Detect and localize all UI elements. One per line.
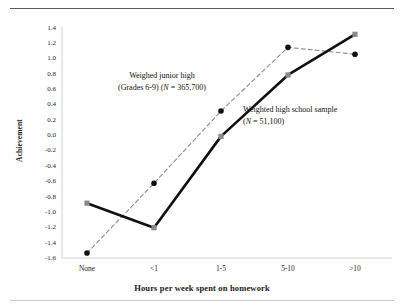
line-chart: 1.4 1.2 1.0 0.8 0.6 0.4 0.2 0.0 -0.2 -0.… bbox=[0, 18, 404, 278]
y-tick-label: -0.8 bbox=[45, 193, 57, 201]
annotation-text: = 365,700) bbox=[169, 83, 206, 92]
top-divider-rule bbox=[10, 8, 394, 9]
x-axis-title: Hours per week spent on homework bbox=[0, 283, 404, 293]
bottom-divider-rule bbox=[10, 300, 394, 301]
annotation-high-school: Weighted high school sample (N = 51,100) bbox=[243, 104, 337, 127]
x-tick-label: <1 bbox=[150, 264, 158, 273]
y-tick-label: 1.0 bbox=[47, 54, 56, 62]
data-point-marker bbox=[151, 180, 157, 186]
y-tick-label: -0.2 bbox=[45, 146, 57, 154]
y-tick-label: 0.0 bbox=[47, 131, 56, 139]
y-tick-label: 1.4 bbox=[47, 24, 56, 32]
y-axis-title: Achievement bbox=[15, 96, 24, 186]
data-point-marker bbox=[352, 51, 358, 57]
annotation-junior-high: Weighed junior high (Grades 6-9) (N = 36… bbox=[118, 70, 206, 93]
y-axis-ticks: 1.4 1.2 1.0 0.8 0.6 0.4 0.2 0.0 -0.2 -0.… bbox=[45, 24, 57, 262]
annotation-text: = 51,100) bbox=[251, 117, 284, 126]
y-tick-label: -1.2 bbox=[45, 223, 57, 231]
y-tick-label: 0.2 bbox=[47, 116, 56, 124]
x-axis-ticks: None <1 1-5 5-10 >10 bbox=[79, 264, 361, 273]
y-tick-label: -0.4 bbox=[45, 162, 57, 170]
data-point-marker bbox=[285, 45, 291, 51]
data-point-marker bbox=[352, 32, 357, 37]
annotation-text: (Grades 6-9) ( bbox=[118, 83, 163, 92]
series-line bbox=[87, 34, 355, 227]
data-point-marker bbox=[285, 72, 290, 77]
y-tick-label: 1.2 bbox=[47, 39, 56, 47]
annotation-line-2: (Grades 6-9) (N = 365,700) bbox=[118, 82, 206, 94]
data-point-marker bbox=[84, 201, 89, 206]
data-point-marker bbox=[84, 250, 90, 256]
x-tick-label: None bbox=[79, 264, 96, 273]
annotation-line-1: Weighed junior high bbox=[118, 70, 206, 82]
y-tick-label: 0.4 bbox=[47, 100, 56, 108]
annotation-line-2: (N = 51,100) bbox=[243, 116, 337, 128]
figure-container: 1.4 1.2 1.0 0.8 0.6 0.4 0.2 0.0 -0.2 -0.… bbox=[0, 0, 404, 305]
y-tick-label: -1.4 bbox=[45, 239, 57, 247]
annotation-line-1: Weighted high school sample bbox=[243, 104, 337, 116]
data-point-marker bbox=[218, 108, 224, 114]
y-tick-label: 0.8 bbox=[47, 70, 56, 78]
x-tick-label: 5-10 bbox=[281, 264, 295, 273]
data-point-marker bbox=[218, 134, 223, 139]
y-tick-label: -1.0 bbox=[45, 208, 57, 216]
series-layer bbox=[84, 32, 358, 256]
x-tick-label: 1-5 bbox=[216, 264, 226, 273]
x-tick-label: >10 bbox=[349, 264, 361, 273]
y-tick-label: -0.6 bbox=[45, 177, 57, 185]
plot-area: 1.4 1.2 1.0 0.8 0.6 0.4 0.2 0.0 -0.2 -0.… bbox=[0, 18, 404, 278]
y-tick-label: 0.6 bbox=[47, 85, 56, 93]
data-point-marker bbox=[151, 225, 156, 230]
y-tick-label: -1.6 bbox=[45, 254, 57, 262]
